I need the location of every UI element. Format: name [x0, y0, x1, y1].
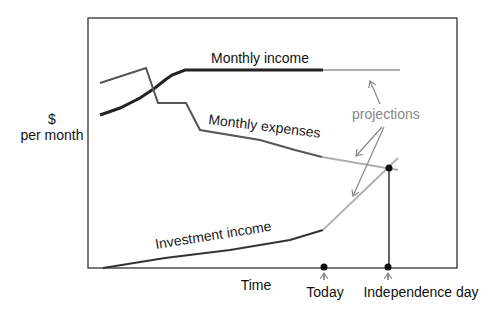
monthly-income-label: Monthly income — [211, 50, 309, 66]
projections-label: projections — [352, 106, 420, 122]
independence-point — [386, 165, 393, 172]
monthly-income-line — [100, 70, 323, 115]
today-label: Today — [306, 284, 343, 300]
y-axis-label-line1: $ — [48, 111, 56, 127]
today-axis-dot — [321, 264, 328, 271]
y-axis-label-line2: per month — [20, 127, 83, 143]
monthly-expenses-label: Monthly expenses — [208, 111, 322, 141]
chart-canvas: Monthly income Monthly expenses Investme… — [0, 0, 493, 312]
independence-axis-dot — [385, 264, 392, 271]
x-axis-label: Time — [241, 277, 272, 293]
projection-arrow-icon — [370, 81, 380, 104]
independence-day-label: Independence day — [363, 284, 478, 300]
